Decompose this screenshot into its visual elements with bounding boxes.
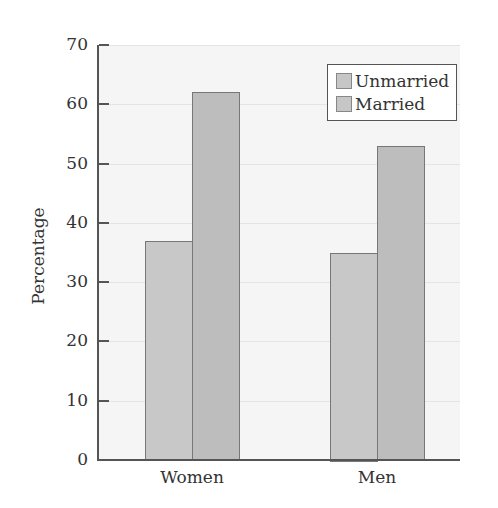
category-label-women: Women xyxy=(132,467,252,487)
bar-chart: 010203040506070 Percentage Women Men Unm… xyxy=(0,0,498,508)
legend: Unmarried Married xyxy=(327,64,457,121)
y-tick xyxy=(99,163,109,165)
legend-item-unmarried: Unmarried xyxy=(336,70,449,92)
bar-men-unmarried xyxy=(330,253,378,462)
x-axis-line xyxy=(97,459,460,461)
legend-label-unmarried: Unmarried xyxy=(355,71,449,91)
y-tick-label: 0 xyxy=(48,450,88,468)
y-tick-label: 70 xyxy=(48,35,88,53)
y-tick xyxy=(99,222,109,224)
legend-item-married: Married xyxy=(336,93,425,115)
y-tick-label: 20 xyxy=(48,331,88,349)
legend-swatch-unmarried xyxy=(336,73,352,89)
y-tick xyxy=(99,281,109,283)
y-tick xyxy=(99,400,109,402)
y-axis-label: Percentage xyxy=(28,206,48,306)
y-tick-label: 10 xyxy=(48,391,88,409)
bar-men-married xyxy=(377,146,425,461)
y-tick-label: 60 xyxy=(48,94,88,112)
category-label-men: Men xyxy=(317,467,437,487)
y-tick xyxy=(99,340,109,342)
y-tick xyxy=(99,44,109,46)
y-tick xyxy=(99,459,109,461)
y-tick-label: 50 xyxy=(48,154,88,172)
y-tick-label: 40 xyxy=(48,213,88,231)
y-tick-label: 30 xyxy=(48,272,88,290)
legend-swatch-married xyxy=(336,96,352,112)
legend-label-married: Married xyxy=(355,94,425,114)
bar-women-married xyxy=(192,92,240,461)
gridline xyxy=(99,45,460,46)
y-tick xyxy=(99,103,109,105)
y-axis-line xyxy=(97,45,99,461)
bar-women-unmarried xyxy=(145,241,193,461)
